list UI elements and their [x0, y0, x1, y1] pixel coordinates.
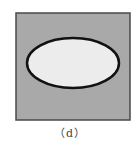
- diagram-figure: [0, 0, 140, 143]
- figure-caption: （d）: [0, 124, 140, 140]
- light-ellipse: [27, 38, 119, 88]
